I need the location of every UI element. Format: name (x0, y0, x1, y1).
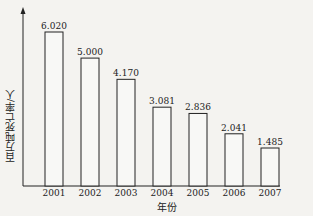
x-tick-2003: 2003 (115, 188, 138, 198)
x-tick-2006: 2006 (223, 188, 246, 198)
bar-2005 (189, 113, 207, 186)
bar-chart: 6.0205.0004.1703.0812.8362.0411.485 2001… (0, 0, 313, 216)
x-axis-label: 年份 (0, 199, 313, 214)
value-label-2001: 6.020 (41, 21, 67, 31)
bar-2002 (81, 58, 99, 186)
y-axis-label: 百万吨死亡率/人 (2, 60, 20, 190)
bar-2007 (261, 148, 279, 186)
bar-2006 (225, 134, 243, 186)
bar-2004 (153, 107, 171, 186)
value-label-2007: 1.485 (257, 137, 283, 147)
bar-2001 (45, 32, 63, 186)
value-label-2004: 3.081 (149, 96, 175, 106)
value-label-2006: 2.041 (221, 123, 247, 133)
y-axis-arrow-icon (21, 7, 26, 14)
x-tick-labels: 2001200220032004200520062007 (43, 188, 282, 198)
value-label-2005: 2.836 (185, 102, 211, 112)
x-tick-2002: 2002 (79, 188, 102, 198)
x-tick-2004: 2004 (151, 188, 174, 198)
value-label-2002: 5.000 (77, 47, 103, 57)
bar-2003 (117, 79, 135, 186)
x-tick-2001: 2001 (43, 188, 66, 198)
x-tick-2007: 2007 (259, 188, 282, 198)
x-tick-2005: 2005 (187, 188, 210, 198)
value-label-2003: 4.170 (113, 68, 139, 78)
